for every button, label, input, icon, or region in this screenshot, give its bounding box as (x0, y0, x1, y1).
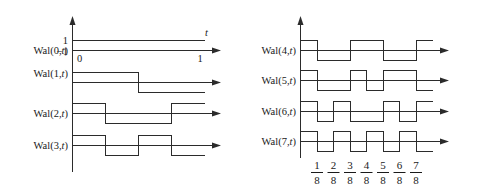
left-vertical-axis (70, 16, 76, 172)
waveform-label-wal-2: Wal(2,t) (34, 108, 69, 120)
right-panel: Wal(4,t) Wal(5,t) Wal(6,t) Wal(7,t) 1 8 … (238, 0, 477, 188)
fraction-denominator: 8 (331, 174, 337, 186)
fraction-denominator: 8 (397, 174, 403, 186)
left-panel: 1 −1 0 1 t Wal(0,t) Wal(1,t) Wal(2,t) Wa… (0, 0, 239, 188)
waveform-label-wal-5: Wal(5,t) (262, 75, 297, 87)
right-panel-svg: Wal(4,t) Wal(5,t) Wal(6,t) Wal(7,t) 1 8 … (238, 0, 477, 188)
time-tick-end: 1 (197, 53, 202, 64)
left-panel-svg: 1 −1 0 1 t Wal(0,t) Wal(1,t) Wal(2,t) Wa… (0, 0, 239, 188)
waveform-label-wal-1: Wal(1,t) (34, 68, 69, 80)
waveform-label-wal-7: Wal(7,t) (262, 136, 297, 148)
waveform-label-wal-3: Wal(3,t) (34, 140, 69, 152)
waveform-wal-0 (73, 41, 222, 54)
waveform-label-wal-0: Wal(0,t) (34, 45, 69, 57)
waveform-wal-2 (73, 104, 222, 124)
fraction-denominator: 8 (380, 174, 386, 186)
fraction-numerator: 2 (331, 159, 337, 171)
fraction-numerator: 5 (380, 159, 386, 171)
fraction-numerator: 1 (314, 159, 320, 171)
waveform-label-wal-6: Wal(6,t) (262, 106, 297, 118)
fraction-denominator: 8 (364, 174, 370, 186)
fraction-tick-3: 3 8 (344, 159, 356, 186)
waveform-label-wal-4: Wal(4,t) (262, 45, 297, 57)
waveform-wal-4 (301, 41, 450, 61)
waveform-wal-6 (301, 102, 450, 122)
axis-variable-t: t (205, 27, 209, 38)
time-tick-start: 0 (77, 53, 82, 64)
fraction-tick-6: 6 8 (394, 159, 406, 186)
fraction-denominator: 8 (347, 174, 353, 186)
walsh-function-figure: 1 −1 0 1 t Wal(0,t) Wal(1,t) Wal(2,t) Wa… (0, 0, 477, 188)
fraction-tick-1: 1 8 (311, 159, 323, 186)
fraction-tick-7: 7 8 (410, 159, 422, 186)
waveform-wal-3 (73, 136, 222, 156)
fraction-tick-4: 4 8 (361, 159, 373, 186)
fraction-tick-5: 5 8 (377, 159, 389, 186)
fraction-denominator: 8 (413, 174, 419, 186)
fraction-numerator: 4 (364, 159, 370, 171)
fraction-denominator: 8 (314, 174, 320, 186)
waveform-wal-5 (301, 71, 450, 91)
fraction-numerator: 6 (397, 159, 403, 171)
fraction-numerator: 3 (347, 159, 353, 171)
waveform-wal-7 (301, 132, 450, 152)
waveform-wal-1 (73, 73, 222, 93)
fraction-numerator: 7 (413, 159, 419, 171)
right-vertical-axis (298, 16, 304, 158)
fraction-tick-2: 2 8 (328, 159, 340, 186)
